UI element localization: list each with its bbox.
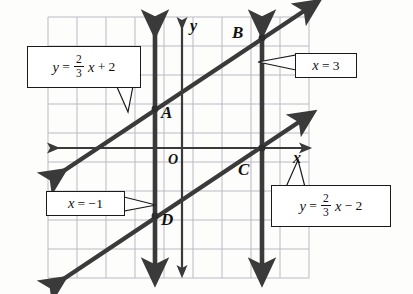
point-label-a: A xyxy=(161,103,172,123)
upper-equation-fraction: 2 3 xyxy=(74,54,84,80)
x-equals-negative-one-equals: = xyxy=(78,196,86,212)
x-equals-three-expression: x = 3 xyxy=(312,57,339,74)
point-d-dot xyxy=(152,213,159,220)
upper-equation-lhs: y xyxy=(53,59,60,76)
lower-equation-expression: y = 2 3 x − 2 xyxy=(300,193,363,219)
point-label-c: C xyxy=(238,160,249,180)
upper-equation-denominator: 3 xyxy=(74,66,84,80)
upper-equation-numerator: 2 xyxy=(74,54,84,67)
coordinate-plane-figure: y x O A B C D y = 2 3 x + 2 x = 3 x = xyxy=(0,0,413,294)
origin-label: O xyxy=(168,152,178,168)
point-c-dot xyxy=(259,145,266,152)
point-label-b: B xyxy=(232,23,243,43)
upper-equation-variable: x xyxy=(88,59,95,76)
lower-equation-equals: = xyxy=(309,198,317,214)
point-b-dot xyxy=(259,35,266,42)
figure-canvas xyxy=(0,0,413,294)
upper-equation-operator: + xyxy=(98,59,106,75)
x-equals-negative-one-value: −1 xyxy=(88,196,103,212)
callout-upper-equation: y = 2 3 x + 2 xyxy=(27,46,141,88)
upper-equation-equals: = xyxy=(62,59,70,75)
point-a-dot xyxy=(152,106,159,113)
lower-equation-numerator: 2 xyxy=(321,193,331,206)
lower-equation-lhs: y xyxy=(300,198,307,215)
x-equals-three-value: 3 xyxy=(333,58,340,74)
lower-equation-constant: 2 xyxy=(355,198,362,214)
lower-equation-variable: x xyxy=(335,198,342,215)
lower-equation-fraction: 2 3 xyxy=(321,193,331,219)
upper-equation-constant: 2 xyxy=(108,59,115,75)
callout-x-equals-negative-one: x = −1 xyxy=(46,191,125,216)
point-label-d: D xyxy=(161,210,173,230)
x-equals-negative-one-lhs: x xyxy=(68,195,75,212)
lower-equation-denominator: 3 xyxy=(321,205,331,219)
callout-lower-equation: y = 2 3 x − 2 xyxy=(271,185,391,227)
x-axis-label: x xyxy=(293,149,301,167)
callout-x-equals-three: x = 3 xyxy=(295,53,357,78)
x-equals-negative-one-expression: x = −1 xyxy=(68,195,103,212)
x-equals-three-lhs: x xyxy=(312,57,319,74)
lower-equation-operator: − xyxy=(345,198,353,214)
y-axis-label: y xyxy=(190,17,197,35)
upper-equation-expression: y = 2 3 x + 2 xyxy=(53,54,116,80)
x-equals-three-equals: = xyxy=(322,58,330,74)
